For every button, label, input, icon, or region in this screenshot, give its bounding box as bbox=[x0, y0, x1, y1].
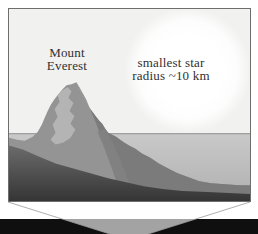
star-label-line2: radius ~10 km bbox=[109, 69, 233, 82]
mountain-scene bbox=[9, 9, 250, 201]
figure-panel: Mount Everest smallest star radius ~10 k… bbox=[8, 8, 251, 202]
funnel-graphic bbox=[0, 201, 258, 234]
funnel-zone bbox=[0, 201, 258, 234]
figure: Mount Everest smallest star radius ~10 k… bbox=[0, 0, 258, 234]
everest-label-line2: Everest bbox=[22, 59, 112, 72]
everest-label: Mount Everest bbox=[22, 46, 112, 72]
star-label: smallest star radius ~10 km bbox=[109, 56, 233, 82]
